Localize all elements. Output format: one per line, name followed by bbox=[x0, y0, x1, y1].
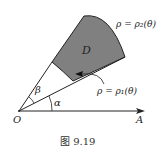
origin-label: O bbox=[13, 114, 21, 125]
alpha-label: α bbox=[54, 97, 61, 108]
alpha-arc bbox=[49, 96, 52, 111]
inner-curve-label: ρ = ρ₁(θ) bbox=[97, 86, 137, 96]
origin-point bbox=[18, 110, 20, 112]
outer-curve-label: ρ = ρ₂(θ) bbox=[116, 19, 156, 29]
figure-caption: 图 9.19 bbox=[60, 133, 95, 148]
beta-label: β bbox=[35, 84, 41, 95]
axis-end-label: A bbox=[136, 114, 143, 125]
beta-arc bbox=[29, 97, 34, 103]
region-label: D bbox=[82, 44, 91, 57]
